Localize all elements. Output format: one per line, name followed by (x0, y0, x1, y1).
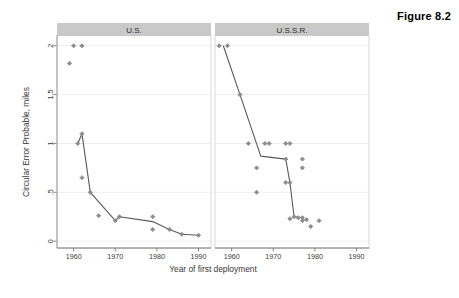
panel-strip-label: U.S. (126, 26, 142, 35)
data-point (255, 166, 259, 170)
data-point (305, 218, 309, 222)
x-tick-label: 1990 (191, 252, 207, 261)
x-tick-label: 1990 (349, 252, 365, 261)
data-point (288, 217, 292, 221)
y-tick-label: 0 (47, 239, 56, 243)
data-point (317, 219, 321, 223)
x-tick-label: 1980 (307, 252, 323, 261)
data-point (284, 157, 288, 161)
x-tick-label: 1970 (265, 252, 281, 261)
data-point (80, 176, 84, 180)
data-point (284, 141, 288, 145)
data-point (225, 44, 229, 48)
data-point (309, 225, 313, 229)
data-point (67, 61, 71, 65)
data-point (80, 44, 84, 48)
trend-line (78, 134, 199, 236)
data-point (300, 157, 304, 161)
y-tick-label: 1 (47, 141, 56, 145)
data-point (292, 215, 296, 219)
data-point (97, 214, 101, 218)
panel-border (57, 35, 211, 248)
y-axis-title: Circular Error Probable, miles (21, 87, 31, 197)
data-point (238, 93, 242, 97)
data-point (267, 141, 271, 145)
data-point (76, 141, 80, 145)
data-point (300, 219, 304, 223)
figure-container: Figure 8.2 0.511.52Circular Error Probab… (0, 0, 459, 298)
data-point (255, 190, 259, 194)
x-axis-title: Year of first deployment (169, 264, 257, 274)
x-tick-label: 1980 (149, 252, 165, 261)
data-point (296, 216, 300, 220)
data-point (217, 44, 221, 48)
panel-border (215, 35, 369, 248)
panel-strip-label: U.S.S.R. (276, 26, 307, 35)
x-tick-label: 1960 (224, 252, 240, 261)
y-tick-label: .5 (47, 189, 56, 195)
data-point (197, 233, 201, 237)
data-point (300, 166, 304, 170)
scatter-chart: 0.511.52Circular Error Probable, milesU.… (0, 0, 459, 298)
data-point (288, 181, 292, 185)
data-point (167, 227, 171, 231)
data-point (80, 132, 84, 136)
x-tick-label: 1960 (66, 252, 82, 261)
y-tick-label: 1.5 (47, 90, 56, 100)
data-point (263, 141, 267, 145)
y-tick-label: 2 (47, 44, 56, 48)
x-tick-label: 1970 (107, 252, 123, 261)
data-point (151, 227, 155, 231)
data-point (72, 44, 76, 48)
data-point (246, 141, 250, 145)
data-point (284, 181, 288, 185)
data-point (288, 141, 292, 145)
data-point (151, 215, 155, 219)
data-point (180, 232, 184, 236)
